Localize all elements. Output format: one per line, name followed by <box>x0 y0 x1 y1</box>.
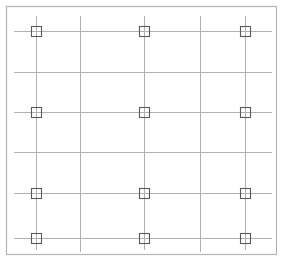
outer-frame <box>7 7 277 255</box>
horizontal-gridlines-layer <box>14 32 272 239</box>
outer-frame-layer <box>7 7 277 255</box>
vertical-gridlines-layer <box>37 16 246 252</box>
column-markers-layer <box>32 27 251 244</box>
drawing-svg-canvas <box>0 0 283 264</box>
structural-grid-drawing <box>0 0 283 264</box>
